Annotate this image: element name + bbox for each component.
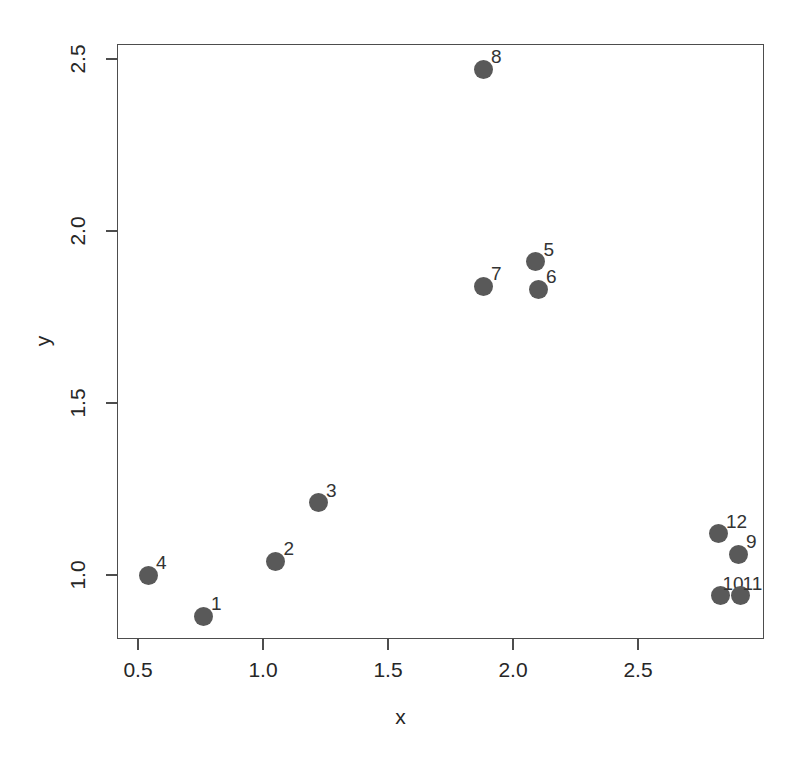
y-axis-title-wrapper: y	[20, 318, 66, 364]
y-axis-tick	[106, 574, 117, 576]
y-axis-tick-label-wrapper: 2.5	[54, 46, 100, 72]
y-axis-tick-label: 2.5	[64, 36, 90, 82]
x-axis-tick	[512, 639, 514, 650]
x-axis-tick-label: 0.5	[123, 659, 152, 680]
y-axis-tick-label-wrapper: 2.0	[54, 218, 100, 244]
x-axis-tick-label: 1.0	[248, 659, 277, 680]
scatter-plot-figure: 0.51.01.52.02.51.01.52.02.51234567891011…	[0, 0, 801, 760]
y-axis-tick-label: 1.5	[64, 380, 90, 426]
y-axis-tick-label: 2.0	[64, 208, 90, 254]
x-axis-tick	[387, 639, 389, 650]
y-axis-tick-label-wrapper: 1.5	[54, 390, 100, 416]
y-axis-title: y	[20, 318, 66, 364]
x-axis-tick	[637, 639, 639, 650]
y-axis-tick-label: 1.0	[64, 552, 90, 598]
y-axis-tick	[106, 402, 117, 404]
plot-panel-frame	[117, 44, 764, 639]
x-axis-tick-label: 2.5	[623, 659, 652, 680]
y-axis-tick-label-wrapper: 1.0	[54, 562, 100, 588]
x-axis-tick-label: 2.0	[498, 659, 527, 680]
y-axis-tick	[106, 58, 117, 60]
x-axis-tick-label: 1.5	[373, 659, 402, 680]
x-axis-tick	[137, 639, 139, 650]
x-axis-tick	[262, 639, 264, 650]
y-axis-tick	[106, 230, 117, 232]
x-axis-title: x	[0, 705, 801, 729]
